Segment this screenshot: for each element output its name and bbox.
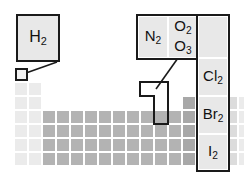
hydrogen-callout[interactable]: H2	[16, 14, 60, 62]
periodic-table-cell	[14, 138, 28, 152]
periodic-table-cell	[84, 124, 98, 138]
periodic-table-cell	[154, 152, 168, 166]
periodic-table-cell	[14, 110, 28, 124]
hydrogen-subscript: 2	[41, 35, 47, 47]
bromine-cell[interactable]: Br2	[198, 96, 228, 134]
periodic-table-cell	[238, 96, 244, 110]
chlorine-cell[interactable]: Cl2	[198, 58, 228, 96]
periodic-table-cell	[168, 110, 182, 124]
periodic-table-cell	[98, 152, 112, 166]
periodic-table-cell	[56, 152, 70, 166]
periodic-table-diagram: H2 N2 O2 O3 F2 Cl2 Br2 I2	[0, 0, 244, 184]
periodic-table-cell	[126, 110, 140, 124]
oxygen-dioxygen-formula: O2	[174, 18, 191, 36]
periodic-table-cell	[182, 138, 196, 152]
iodine-formula: I2	[208, 143, 218, 161]
ozone-subscript: 3	[186, 44, 192, 55]
periodic-table-cell	[182, 152, 196, 166]
periodic-table-cell	[70, 124, 84, 138]
periodic-table-cell	[14, 152, 28, 166]
periodic-table-cell	[140, 110, 154, 124]
periodic-table-cell	[112, 138, 126, 152]
periodic-table-cell	[140, 124, 154, 138]
periodic-table-cell	[98, 138, 112, 152]
periodic-table-cell	[28, 124, 42, 138]
periodic-table-cell	[98, 110, 112, 124]
periodic-table-cell	[126, 138, 140, 152]
periodic-table-cell	[154, 124, 168, 138]
periodic-table-cell	[182, 96, 196, 110]
periodic-table-cell	[168, 124, 182, 138]
periodic-table-cell	[238, 138, 244, 152]
iodine-cell[interactable]: I2	[198, 134, 228, 170]
chlorine-formula: Cl2	[203, 68, 223, 86]
periodic-table-cell	[112, 124, 126, 138]
periodic-table-cell	[112, 110, 126, 124]
hydrogen-formula: H2	[29, 29, 47, 47]
periodic-table-cell	[56, 110, 70, 124]
periodic-table-cell	[126, 152, 140, 166]
periodic-table-cell	[112, 152, 126, 166]
periodic-table-cell	[14, 82, 28, 96]
periodic-table-cell	[238, 110, 244, 124]
periodic-table-cell	[84, 152, 98, 166]
periodic-table-cell	[14, 124, 28, 138]
periodic-table-cell	[42, 152, 56, 166]
periodic-table-cell	[98, 124, 112, 138]
periodic-table-cell	[168, 152, 182, 166]
periodic-table-cell	[238, 152, 244, 166]
chlorine-subscript: 2	[217, 75, 223, 86]
periodic-table-cell	[28, 138, 42, 152]
periodic-table-cell	[56, 124, 70, 138]
periodic-table-cell	[28, 152, 42, 166]
periodic-table-cell	[140, 138, 154, 152]
hydrogen-cell-highlight[interactable]	[15, 68, 28, 81]
bromine-formula: Br2	[203, 106, 224, 124]
periodic-table-cell	[154, 110, 168, 124]
iodine-subscript: 2	[212, 150, 218, 161]
periodic-table-cell	[28, 96, 42, 110]
nitrogen-cell[interactable]: N2	[138, 16, 168, 58]
periodic-table-cell	[28, 110, 42, 124]
periodic-table-cell	[182, 110, 196, 124]
oxygen-subscript: 2	[186, 25, 192, 36]
bromine-subscript: 2	[218, 113, 224, 124]
fluorine-cell-column-spacer	[198, 16, 228, 58]
periodic-table-cell	[42, 110, 56, 124]
periodic-table-cell	[42, 124, 56, 138]
periodic-table-cell	[238, 124, 244, 138]
nitrogen-formula: N2	[145, 28, 162, 46]
periodic-table-cell	[56, 138, 70, 152]
periodic-table-cell	[70, 110, 84, 124]
periodic-table-cell	[70, 138, 84, 152]
periodic-table-cell	[168, 138, 182, 152]
nitrogen-subscript: 2	[156, 35, 162, 46]
periodic-table-cell	[154, 138, 168, 152]
periodic-table-cell	[84, 110, 98, 124]
periodic-table-cell	[70, 152, 84, 166]
oxygen-ozone-formula: O3	[174, 38, 191, 56]
periodic-table-cell	[14, 96, 28, 110]
periodic-table-cell	[182, 124, 196, 138]
periodic-table-cell	[28, 82, 42, 96]
periodic-table-cell	[126, 124, 140, 138]
periodic-table-cell	[84, 138, 98, 152]
periodic-table-cell	[140, 152, 154, 166]
oxygen-cell[interactable]: O2 O3	[168, 16, 198, 58]
periodic-table-cell	[42, 138, 56, 152]
nonmetal-callout-column[interactable]: Cl2 Br2 I2	[196, 14, 230, 172]
hydrogen-cell: H2	[18, 16, 58, 60]
